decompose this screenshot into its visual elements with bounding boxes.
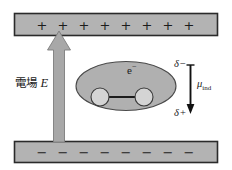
- electric-field-label: 電場E: [15, 77, 48, 90]
- plate-charge-sign: −: [37, 145, 48, 160]
- electron-label-charge: −: [132, 62, 137, 71]
- delta-sign-bottom: +: [179, 107, 186, 118]
- plate-charge-sign: −: [121, 145, 132, 160]
- plate-charge-sign: +: [58, 18, 69, 33]
- plate-charge-sign: −: [142, 145, 153, 160]
- plate-charge-sign: +: [100, 18, 111, 33]
- electric-field-label-text: 電場: [15, 76, 37, 90]
- atom-nucleus-left: [91, 88, 109, 106]
- atom-nucleus-right: [135, 88, 153, 106]
- plate-charge-sign: +: [37, 18, 48, 33]
- plate-charge-sign: −: [79, 145, 90, 160]
- plate-charge-sign: −: [184, 145, 195, 160]
- electric-field-symbol: E: [37, 76, 48, 90]
- molecule-group: [76, 62, 176, 111]
- dipole-arrow-head: [187, 104, 195, 114]
- field-arrow-shape: [48, 31, 71, 142]
- partial-positive-charge-label: δ+: [174, 108, 186, 119]
- induced-dipole-arrow: [187, 65, 195, 114]
- partial-negative-charge-label: δ−: [174, 59, 186, 70]
- plate-charge-sign: −: [58, 145, 69, 160]
- electric-field-arrow: [48, 31, 71, 142]
- plate-charge-sign: +: [79, 18, 90, 33]
- delta-sign-top: −: [179, 58, 186, 69]
- electron-label: e−: [127, 65, 136, 76]
- plate-charge-sign: +: [163, 18, 174, 33]
- plate-charge-sign: −: [163, 145, 174, 160]
- mu-subscript: ind: [202, 84, 211, 92]
- plate-charge-sign: +: [121, 18, 132, 33]
- electron-cloud-ellipse: [76, 62, 176, 111]
- induced-dipole-moment-label: μind: [197, 79, 211, 90]
- plate-charge-sign: +: [142, 18, 153, 33]
- bottom-plate: − − − − − − − −: [15, 142, 218, 163]
- figure-canvas: + + + + + + + + − − − − − − − −: [0, 0, 232, 170]
- top-plate: + + + + + + + +: [15, 14, 218, 36]
- plate-charge-sign: −: [100, 145, 111, 160]
- plate-charge-sign: +: [184, 18, 195, 33]
